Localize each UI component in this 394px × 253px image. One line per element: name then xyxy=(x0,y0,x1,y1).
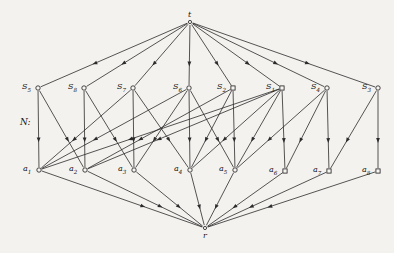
node-a4[interactable] xyxy=(188,168,192,172)
edge-S5-a1 xyxy=(37,91,41,167)
edge-t-S4 xyxy=(193,23,325,86)
node-label-sub-a2: 2 xyxy=(74,169,78,175)
node-label-sub-a8: 8 xyxy=(367,170,371,176)
node-label-sub-S3: 3 xyxy=(367,87,371,93)
node-label-a1: a1 xyxy=(23,165,31,175)
node-label-base-t: t xyxy=(188,10,191,19)
figure-canvas: tS5S8S7S6S2S1S4S3a1a2a3a4a5a6a7a8r N: xyxy=(0,0,394,253)
edge-S4-a7 xyxy=(326,91,330,168)
node-layer xyxy=(36,20,380,229)
node-label-S5: S5 xyxy=(22,83,31,93)
node-label-S6: S6 xyxy=(173,83,182,93)
node-a2[interactable] xyxy=(83,168,87,172)
edge-a8-r xyxy=(208,172,375,227)
graph-svg xyxy=(0,0,394,253)
node-S2[interactable] xyxy=(231,86,235,90)
node-a7[interactable] xyxy=(327,169,331,173)
node-label-sub-a1: 1 xyxy=(28,169,32,175)
edge-S1-a4 xyxy=(192,90,280,168)
edge-t-S1 xyxy=(192,24,279,87)
node-label-S7: S7 xyxy=(117,83,126,93)
node-S5[interactable] xyxy=(36,86,40,90)
node-label-a7: a7 xyxy=(313,166,321,176)
node-label-sub-S8: 8 xyxy=(73,87,77,93)
node-label-sub-a6: 6 xyxy=(274,170,278,176)
edge-S5-a2 xyxy=(39,91,83,168)
edge-a2-r xyxy=(88,171,203,226)
node-label-S3: S3 xyxy=(362,83,371,93)
edge-S4-a6 xyxy=(286,91,325,169)
node-r[interactable] xyxy=(203,226,206,229)
edge-S6-a1 xyxy=(42,89,187,168)
node-label-a3: a3 xyxy=(118,165,126,175)
node-label-sub-a4: 4 xyxy=(179,169,183,175)
figure-caption: N: xyxy=(20,118,31,127)
edge-S3-a7 xyxy=(331,91,377,169)
node-S4[interactable] xyxy=(325,86,329,90)
node-label-S2: S2 xyxy=(217,83,226,93)
edge-S1-a2 xyxy=(88,89,279,169)
edge-t-S3 xyxy=(193,23,375,87)
node-label-sub-S2: 2 xyxy=(222,87,226,93)
edge-S1-a6 xyxy=(282,91,286,168)
node-S8[interactable] xyxy=(82,86,86,90)
edge-a6-r xyxy=(207,173,282,227)
node-label-a4: a4 xyxy=(174,165,182,175)
node-label-S8: S8 xyxy=(68,83,77,93)
edge-t-S7 xyxy=(135,24,188,85)
node-label-S1: S1 xyxy=(266,83,275,93)
edge-S6-a4 xyxy=(188,91,192,167)
node-a8[interactable] xyxy=(376,169,380,173)
node-label-t: t xyxy=(188,11,191,19)
node-label-sub-S1: 1 xyxy=(271,87,275,93)
edge-S6-a5 xyxy=(190,91,233,168)
edge-S4-a5 xyxy=(237,90,325,168)
node-label-sub-a5: 5 xyxy=(224,169,228,175)
edge-a1-r xyxy=(42,171,202,227)
node-label-r: r xyxy=(203,232,207,240)
node-label-a8: a8 xyxy=(362,166,370,176)
node-t[interactable] xyxy=(188,20,191,23)
node-S3[interactable] xyxy=(376,86,380,90)
node-label-S4: S4 xyxy=(311,83,320,93)
node-a3[interactable] xyxy=(132,168,136,172)
edge-S3-a8 xyxy=(376,91,380,168)
node-label-sub-S5: 5 xyxy=(27,87,31,93)
edge-t-S2 xyxy=(192,25,232,86)
edge-S1-a1 xyxy=(42,89,279,169)
edge-S2-a4 xyxy=(191,91,231,168)
node-label-sub-S4: 4 xyxy=(316,87,320,93)
edge-layer xyxy=(37,23,380,227)
node-label-base-r: r xyxy=(203,231,207,240)
edge-S8-a3 xyxy=(86,91,133,168)
node-label-a5: a5 xyxy=(219,165,227,175)
node-S7[interactable] xyxy=(131,86,135,90)
node-label-sub-a3: 3 xyxy=(123,169,127,175)
edge-a4-r xyxy=(191,173,204,225)
node-label-sub-S6: 6 xyxy=(178,87,182,93)
node-a6[interactable] xyxy=(283,169,287,173)
edge-a7-r xyxy=(208,172,327,226)
edge-S7-a3 xyxy=(132,91,136,167)
node-a5[interactable] xyxy=(233,168,237,172)
edge-t-S5 xyxy=(41,23,187,87)
edge-t-S8 xyxy=(87,24,188,87)
node-label-a6: a6 xyxy=(269,166,277,176)
node-S1[interactable] xyxy=(280,86,284,90)
node-label-a2: a2 xyxy=(69,165,77,175)
edge-S1-a5 xyxy=(236,91,280,168)
node-a1[interactable] xyxy=(37,168,41,172)
node-label-sub-S7: 7 xyxy=(122,87,126,93)
node-S6[interactable] xyxy=(187,86,191,90)
edge-t-S6 xyxy=(188,25,192,85)
node-label-sub-a7: 7 xyxy=(318,170,322,176)
